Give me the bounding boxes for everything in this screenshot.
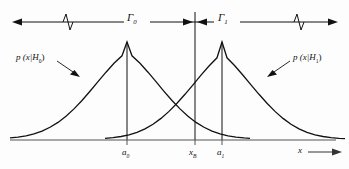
- tick-a1-subscript: 1: [222, 153, 225, 159]
- top-region-arrow-group: [12, 14, 338, 30]
- region-gamma-0-subscript: 0: [133, 18, 136, 25]
- region-inner-left-arrowhead: [183, 18, 193, 25]
- density-label-h0: p (x|H0): [16, 53, 45, 64]
- tick-xb-subscript: B: [193, 153, 196, 159]
- density-h1-close: ): [319, 52, 322, 62]
- x-axis-arrowhead: [332, 149, 342, 156]
- density-h0-close: ): [42, 52, 45, 62]
- region-gamma-1-subscript: 1: [224, 18, 227, 25]
- curve-p-x-given-h0: [10, 42, 250, 138]
- region-label-gamma-1: Γ1: [218, 12, 228, 26]
- tick-label-xb: xB: [189, 148, 196, 159]
- x-axis-label: x: [298, 146, 302, 155]
- figure-canvas: [0, 0, 349, 169]
- region-right-arrowhead: [328, 18, 338, 25]
- density-h1-text: p (x|H: [293, 52, 316, 62]
- figure-container: Γ0 Γ1 p (x|H0) p (x|H1) a0 xB a1 x: [0, 0, 349, 169]
- tick-a0-subscript: 0: [127, 153, 130, 159]
- tick-label-a1: a1: [217, 148, 224, 159]
- region-inner-right-arrowhead: [197, 18, 207, 25]
- region-left-arrowhead: [12, 18, 22, 25]
- density-label-h1: p (x|H1): [293, 53, 322, 64]
- region-label-gamma-0: Γ0: [127, 12, 137, 26]
- density-h0-text: p (x|H: [16, 52, 39, 62]
- tick-label-a0: a0: [122, 148, 129, 159]
